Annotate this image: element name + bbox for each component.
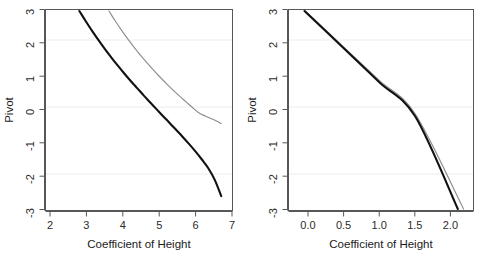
- right-x-axis-title: Coefficient of Height: [329, 238, 433, 250]
- left-yticklabel-1: 1: [24, 76, 36, 82]
- pivot-line-thick: [305, 11, 458, 209]
- right-xticklabel-10: 1.0: [372, 219, 387, 231]
- left-xticklabel-7: 7: [229, 219, 235, 231]
- left-x-axis: 2 3 4 5 6 7 Coefficient of Height: [46, 212, 236, 251]
- chart-panel-left: 3 2 1 0 -1 -2 -3 Pivot 2 3 4 5: [0, 0, 244, 258]
- left-yticklabel-neg2: -2: [24, 174, 36, 184]
- left-y-axis-title: Pivot: [3, 96, 15, 122]
- chart-panel-right: 3 2 1 0 -1 -2 -3 Pivot 0.0 0.5 1.0 1.5: [244, 0, 487, 258]
- right-xticklabel-0: 0.0: [300, 219, 315, 231]
- left-yticklabel-0: 0: [24, 109, 36, 115]
- right-x-axis: 0.0 0.5 1.0 1.5 2.0 Coefficient of Heigh…: [289, 212, 474, 251]
- right-yticklabel-neg1: -1: [267, 141, 279, 151]
- figure-container: 3 2 1 0 -1 -2 -3 Pivot 2 3 4 5: [0, 0, 487, 258]
- left-x-axis-title: Coefficient of Height: [87, 238, 191, 250]
- right-plot-svg: 3 2 1 0 -1 -2 -3 Pivot 0.0 0.5 1.0 1.5: [244, 0, 487, 258]
- left-yticklabel-neg3: -3: [24, 208, 36, 218]
- right-yticklabel-1: 1: [267, 76, 279, 82]
- right-xticklabel-15: 1.5: [407, 219, 422, 231]
- left-xticklabel-6: 6: [193, 219, 199, 231]
- left-plot-svg: 3 2 1 0 -1 -2 -3 Pivot 2 3 4 5: [0, 0, 244, 258]
- right-gridlines: [288, 40, 474, 174]
- left-y-axis: 3 2 1 0 -1 -2 -3 Pivot: [3, 9, 45, 218]
- right-y-axis-title: Pivot: [246, 96, 258, 122]
- left-xticklabel-2: 2: [47, 219, 53, 231]
- right-yticklabel-3: 3: [267, 9, 279, 15]
- right-yticklabel-0: 0: [267, 109, 279, 115]
- left-xticklabel-5: 5: [156, 219, 162, 231]
- left-gridlines: [45, 40, 233, 174]
- left-xticklabel-4: 4: [120, 219, 126, 231]
- left-curves: [79, 11, 221, 196]
- left-xticklabel-3: 3: [83, 219, 89, 231]
- right-xticklabel-05: 0.5: [336, 219, 351, 231]
- left-yticklabel-2: 2: [24, 42, 36, 48]
- right-xticklabel-20: 2.0: [443, 219, 458, 231]
- left-yticklabel-neg1: -1: [24, 141, 36, 151]
- pivot-line-thin: [305, 11, 463, 209]
- right-y-axis: 3 2 1 0 -1 -2 -3 Pivot: [246, 9, 288, 218]
- right-yticklabel-neg2: -2: [267, 174, 279, 184]
- pivot-curve-thick: [79, 11, 221, 196]
- right-yticklabel-2: 2: [267, 42, 279, 48]
- right-curves: [305, 11, 464, 209]
- right-yticklabel-neg3: -3: [267, 208, 279, 218]
- left-yticklabel-3: 3: [24, 9, 36, 15]
